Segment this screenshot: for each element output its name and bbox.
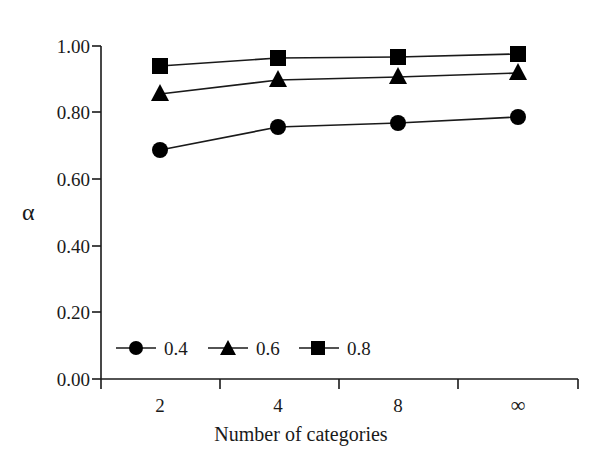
y-tick-label-2: 0.80: [16, 103, 90, 122]
y-tick-label-5: 0.20: [16, 303, 90, 322]
series-markers-0.6: [151, 63, 527, 101]
series-line-0.8: [160, 54, 518, 66]
legend-sample-0.6: [208, 340, 248, 355]
legend-sample-0.8: [299, 341, 339, 355]
chart-figure: 1.00 0.80 0.60 0.40 0.20 0.00 2 4 8 ∞ α …: [0, 0, 602, 465]
legend-label-0.8: 0.8: [347, 339, 371, 358]
x-axis-ticks: [101, 379, 578, 389]
series-markers-0.4: [152, 109, 526, 158]
y-axis-title: α: [22, 200, 35, 224]
series-markers-0.8: [152, 46, 526, 74]
series-line-0.4: [160, 117, 518, 150]
y-tick-label-6: 0.00: [16, 370, 90, 389]
y-tick-label-1: 1.00: [16, 37, 90, 56]
legend-sample-0.4: [116, 341, 156, 355]
y-axis-ticks: [92, 46, 101, 379]
y-tick-label-3: 0.60: [16, 170, 90, 189]
x-tick-label-1: 2: [130, 396, 190, 415]
y-tick-label-4: 0.40: [16, 237, 90, 256]
series-line-0.6: [160, 73, 518, 94]
x-tick-label-4: ∞: [488, 395, 548, 416]
legend-label-0.6: 0.6: [256, 339, 280, 358]
legend-label-0.4: 0.4: [164, 339, 188, 358]
x-tick-label-2: 4: [248, 396, 308, 415]
x-tick-label-3: 8: [368, 396, 428, 415]
x-axis-title: Number of categories: [0, 424, 602, 444]
